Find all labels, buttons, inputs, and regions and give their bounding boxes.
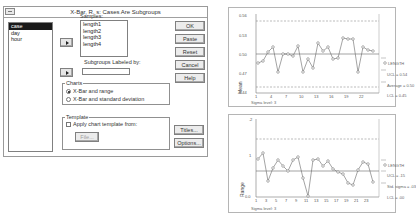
x-tick: 16 <box>329 94 333 99</box>
legend-ucl: UCL = .15 <box>387 173 405 178</box>
x-tick: 1 <box>255 94 257 99</box>
legend-lcl: LCL = 0.45 <box>387 93 407 98</box>
file-button[interactable]: File... <box>75 132 99 142</box>
cancel-button[interactable]: Cancel <box>175 60 205 70</box>
samples-label: Samples: <box>80 13 103 20</box>
x-tick: 7 <box>285 198 287 203</box>
paste-button[interactable]: Paste <box>175 34 205 44</box>
variables-listbox[interactable]: case day hour <box>8 22 53 152</box>
legend-lcl: LCL = .00 <box>387 195 404 200</box>
xbar-range-label[interactable]: X-Bar and range <box>73 88 113 95</box>
x-tick: 4 <box>270 94 272 99</box>
x-tick: 13 <box>314 94 318 99</box>
legend-average: Average = 0.50 <box>387 83 414 88</box>
x-tick: 10 <box>299 94 303 99</box>
variable-item[interactable]: hour <box>9 36 52 43</box>
mean-chart-panel: 0.56 0.53 0.50 0.47 0.44 Mean 1 4 7 10 1… <box>228 7 396 107</box>
right-arrow-icon <box>66 41 69 45</box>
chart-footer: Sigma level: 3 <box>251 206 276 211</box>
sample-item[interactable]: length4 <box>81 41 127 48</box>
mean-chart-plot <box>229 8 397 108</box>
x-tick: 1 <box>255 198 257 203</box>
x-tick: 17 <box>334 198 338 203</box>
ok-button[interactable]: OK <box>175 21 205 31</box>
x-tick: 13 <box>314 198 318 203</box>
samples-listbox[interactable]: length1 length2 length3 length4 <box>80 20 128 57</box>
system-menu-icon[interactable] <box>5 8 15 15</box>
apply-template-label[interactable]: Apply chart template from: <box>73 121 137 128</box>
xbar-stddev-label[interactable]: X-Bar and standard deviation <box>73 96 144 103</box>
x-tick: 21 <box>354 198 358 203</box>
right-arrow-icon <box>66 71 69 75</box>
dialog-titlebar: X-Bar, R, s: Cases Are Subgroups <box>4 7 207 18</box>
legend-series: LENGTH <box>388 61 404 66</box>
x-tick: 9 <box>295 198 297 203</box>
move-to-samples-button[interactable] <box>60 38 73 47</box>
xbar-stddev-radio[interactable] <box>66 97 71 102</box>
xbar-dialog: X-Bar, R, s: Cases Are Subgroups case da… <box>3 6 208 157</box>
x-tick: 19 <box>344 198 348 203</box>
options-button[interactable]: Options... <box>174 138 204 148</box>
x-tick: 23 <box>364 198 368 203</box>
range-chart-panel: .2 1 0.0 Range 1 3 5 7 9 11 13 15 17 19 … <box>228 114 396 213</box>
subgroups-label: Subgroups Labeled by: <box>84 59 141 66</box>
reset-button[interactable]: Reset <box>175 47 205 57</box>
x-tick: 19 <box>344 94 348 99</box>
x-tick: 11 <box>304 198 308 203</box>
charts-group: Charts X-Bar and range X-Bar and standar… <box>62 83 170 105</box>
legend-series: LENGTH <box>388 163 404 168</box>
x-tick: 22 <box>359 94 363 99</box>
template-group-title: Template <box>65 114 89 120</box>
x-tick: 7 <box>285 94 287 99</box>
move-to-subgroups-button[interactable] <box>60 68 73 77</box>
legend-sigma: Std. sigma = .03 <box>387 184 416 189</box>
titles-button[interactable]: Titles... <box>174 125 204 135</box>
xbar-range-radio[interactable] <box>66 89 71 94</box>
template-group: Template Apply chart template from: File… <box>62 117 170 150</box>
chart-footer: Sigma level: 3 <box>251 100 276 105</box>
apply-template-checkbox[interactable] <box>66 122 71 127</box>
charts-group-title: Charts <box>65 80 83 86</box>
dialog-title: X-Bar, R, s: Cases Are Subgroups <box>24 7 207 17</box>
x-tick: 15 <box>324 198 328 203</box>
x-tick: 5 <box>275 198 277 203</box>
subgroups-input[interactable] <box>82 68 130 75</box>
help-button[interactable]: Help <box>175 73 205 83</box>
legend-ucl: UCL = 0.54 <box>387 72 407 77</box>
x-tick: 3 <box>265 198 267 203</box>
